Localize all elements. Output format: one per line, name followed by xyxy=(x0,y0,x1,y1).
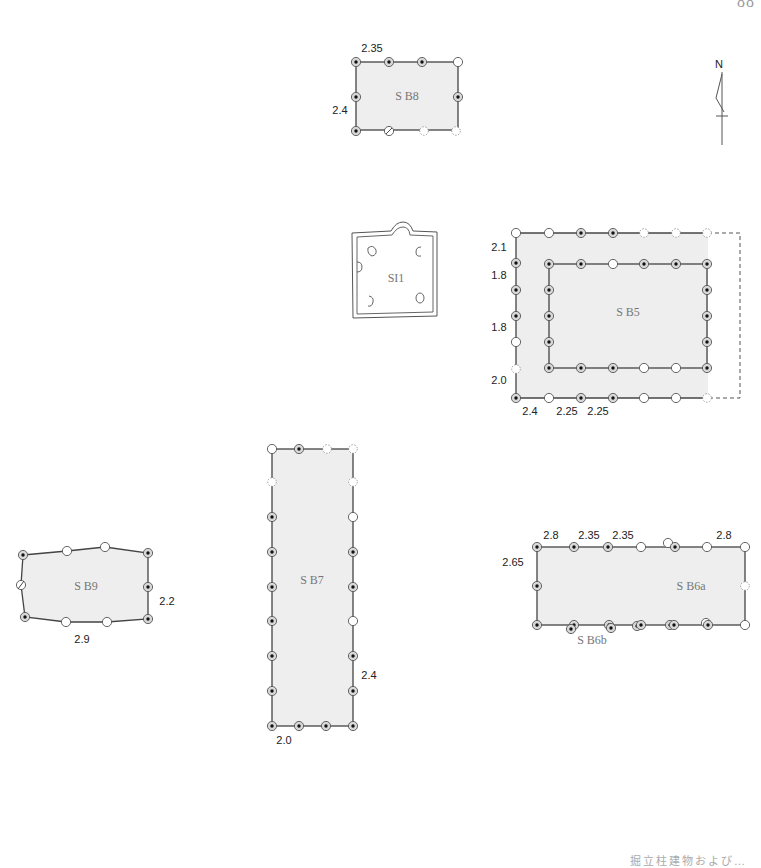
sb6-dim-left: 2.65 xyxy=(502,556,523,568)
building-sb6: S B6a S B6b 2.8 2.35 2.35 2.8 2.65 xyxy=(502,529,749,647)
sb5-dim-left-4: 2.0 xyxy=(491,374,506,386)
sb5-dim-left-3: 1.8 xyxy=(491,321,506,333)
north-arrow-icon: N xyxy=(715,58,728,145)
sb5-dim-bottom-1: 2.4 xyxy=(522,405,537,417)
building-sb5: S B5 2.1 1.8 1.8 2.0 2.4 2.25 2.25 xyxy=(491,228,740,417)
sb7-dim-right: 2.4 xyxy=(361,669,376,681)
sb8-dim-top: 2.35 xyxy=(361,42,382,54)
north-label: N xyxy=(715,58,723,70)
sb6-dim-top-2: 2.35 xyxy=(578,529,599,541)
sb6-dim-top-3: 2.35 xyxy=(612,529,633,541)
sb5-label: S B5 xyxy=(616,305,640,319)
building-sb9: S B9 2.2 2.9 xyxy=(16,542,174,645)
sb6a-label: S B6a xyxy=(676,579,706,593)
sb6-dim-top-4: 2.8 xyxy=(716,529,731,541)
sb5-dim-left-1: 2.1 xyxy=(491,241,506,253)
sb9-label: S B9 xyxy=(74,579,98,593)
building-sb8: S B8 2.35 2.4 xyxy=(332,42,462,136)
sb6-dim-top-1: 2.8 xyxy=(543,529,558,541)
sb9-dim-bottom: 2.9 xyxy=(74,633,89,645)
sb8-dim-left: 2.4 xyxy=(332,104,347,116)
sb5-dim-bottom-2: 2.25 xyxy=(556,405,577,417)
si1-label: SI1 xyxy=(388,271,405,285)
building-sb7: S B7 2.4 2.0 xyxy=(267,444,376,746)
sb7-dim-bottom: 2.0 xyxy=(276,734,291,746)
sb5-dim-left-2: 1.8 xyxy=(491,269,506,281)
sb5-dim-bottom-3: 2.25 xyxy=(587,405,608,417)
sb8-label: S B8 xyxy=(395,89,419,103)
sb7-label: S B7 xyxy=(300,573,324,587)
page-caption: 掘立柱建物および… xyxy=(630,852,747,868)
dwelling-si1: SI1 xyxy=(352,222,437,318)
sb6b-label: S B6b xyxy=(577,633,607,647)
sb9-dim-right: 2.2 xyxy=(159,595,174,607)
